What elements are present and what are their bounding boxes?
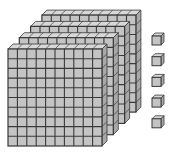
unit-cube [152, 95, 164, 107]
base-ten-blocks-diagram: 405 [0, 0, 176, 158]
unit-cube [152, 116, 164, 128]
unit-cube [152, 74, 164, 86]
unit-cube [152, 54, 164, 66]
hundreds-flats [8, 10, 141, 146]
unit-cube [152, 33, 164, 45]
unit-cubes [152, 33, 164, 128]
blocks-illustration [0, 0, 176, 158]
hundreds-flat [8, 44, 107, 146]
